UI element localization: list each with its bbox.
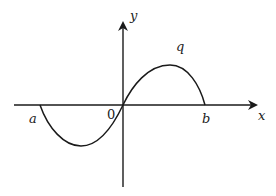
y-axis-label: y bbox=[130, 9, 137, 22]
origin-label: 0 bbox=[107, 108, 115, 121]
root-b-label: b bbox=[202, 112, 210, 125]
curve-q-label: q bbox=[176, 40, 184, 53]
x-axis-label: x bbox=[258, 109, 265, 122]
root-a-label: a bbox=[29, 112, 37, 125]
graph-svg bbox=[0, 0, 276, 196]
diagram-canvas: y x 0 a b q bbox=[0, 0, 276, 196]
